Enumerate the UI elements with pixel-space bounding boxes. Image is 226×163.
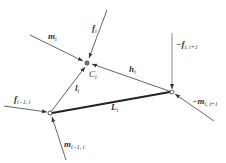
l-i-line <box>50 67 85 113</box>
label-f-im1-i: fi−1, i <box>14 95 30 105</box>
label-f-i: fi <box>92 24 97 34</box>
node-left <box>48 111 52 115</box>
force-f-i-arrow <box>89 10 107 58</box>
label-neg-m-i-ip1: −mi, i+1 <box>192 97 218 107</box>
diagram-canvas: mi fi Ci hi li Li fi−1, i mi−1, i −fi, i… <box>0 0 226 163</box>
label-l-i: li <box>75 84 79 94</box>
label-c-i: Ci <box>89 70 97 80</box>
label-h-i: hi <box>129 65 136 75</box>
diagram-svg <box>0 0 226 163</box>
force-f-im1-i-arrow <box>4 106 47 112</box>
label-m-im1-i: mi−1, i <box>64 140 84 150</box>
label-m-i: mi <box>48 32 57 42</box>
label-L-i: Li <box>111 103 118 113</box>
node-c-i <box>85 61 89 65</box>
node-right <box>170 90 174 94</box>
label-neg-f-i-ip1: −fi, i+1 <box>176 40 198 50</box>
